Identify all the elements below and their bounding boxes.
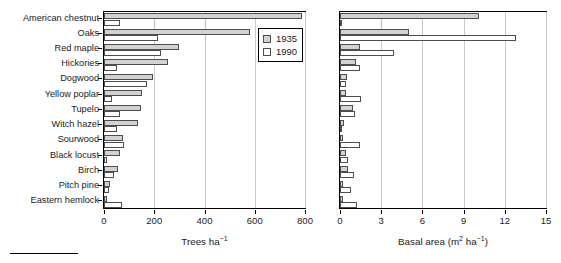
bar — [340, 105, 353, 111]
x-axis-title-exponent-ha: −1 — [477, 235, 485, 242]
legend-item-1990[interactable]: 1990 — [263, 45, 297, 58]
gridline — [305, 12, 306, 208]
bar — [340, 157, 348, 163]
bar — [104, 150, 120, 156]
category-label: Red maple — [55, 44, 99, 53]
category-label: Yellow poplar — [45, 90, 99, 99]
legend-swatch-1935-icon — [263, 35, 271, 43]
bar — [340, 135, 343, 141]
bar — [340, 35, 516, 41]
legend-item-1935[interactable]: 1935 — [263, 32, 297, 45]
x-tick — [340, 210, 341, 214]
bar — [104, 50, 161, 56]
category-label: Black locust — [50, 151, 99, 160]
bar — [104, 202, 122, 208]
gridline — [255, 12, 256, 208]
category-label: Pitch pine — [59, 181, 99, 190]
y-tick — [98, 109, 102, 110]
gridline — [381, 12, 382, 208]
y-tick — [98, 139, 102, 140]
bar — [340, 90, 346, 96]
x-tick-label: 3 — [361, 216, 401, 226]
x-tick — [154, 210, 155, 214]
y-tick — [98, 155, 102, 156]
bar — [104, 126, 117, 132]
legend-label-1990: 1990 — [276, 47, 297, 57]
x-tick-label: 12 — [485, 216, 525, 226]
y-tick — [98, 124, 102, 125]
bar — [340, 29, 409, 35]
bar — [340, 166, 348, 172]
bar — [340, 20, 342, 26]
x-axis-title-prefix: Basal area (m — [398, 236, 459, 247]
y-tick — [98, 33, 102, 34]
bar — [340, 150, 346, 156]
bar — [104, 59, 168, 65]
gridline — [505, 12, 506, 208]
category-label: American chestnut — [23, 14, 99, 23]
bar — [104, 74, 153, 80]
x-tick — [422, 210, 423, 214]
category-label: Hickories — [61, 59, 99, 68]
bar — [340, 111, 355, 117]
bar — [104, 65, 117, 71]
x-axis-title-basal-area: Basal area (m2 ha−1) — [339, 236, 547, 247]
legend-swatch-1990-icon — [263, 48, 271, 56]
chart-panel-trees: American chestnutOaksRed mapleHickoriesD… — [0, 0, 320, 263]
gridline — [422, 12, 423, 208]
x-tick — [464, 210, 465, 214]
bar — [104, 20, 120, 26]
x-tick-label: 600 — [235, 216, 275, 226]
category-label: Oaks — [78, 29, 99, 38]
y-tick — [98, 18, 102, 19]
y-tick — [98, 94, 102, 95]
bar — [104, 157, 107, 163]
x-tick-label: 0 — [320, 216, 360, 226]
bar — [340, 96, 361, 102]
x-tick — [305, 210, 306, 214]
x-tick-label: 0 — [84, 216, 124, 226]
x-tick-label: 200 — [134, 216, 174, 226]
bar — [340, 202, 357, 208]
x-tick — [381, 210, 382, 214]
bar — [104, 35, 158, 41]
gridline — [205, 12, 206, 208]
y-tick — [98, 48, 102, 49]
x-tick-label: 9 — [444, 216, 484, 226]
bar — [340, 187, 351, 193]
footer-rule — [10, 253, 78, 254]
x-axis-title-exponent: −1 — [220, 235, 228, 242]
chart-panel-basal-area: 03691215 Basal area (m2 ha−1) — [320, 0, 561, 263]
x-axis-title-text: Trees ha — [181, 236, 219, 247]
category-label: Dogwood — [60, 74, 99, 83]
bar — [104, 120, 138, 126]
bar — [340, 44, 360, 50]
bar — [104, 172, 114, 178]
bar — [340, 13, 479, 19]
bar — [104, 13, 302, 19]
x-axis-title-mid: ha — [463, 236, 477, 247]
bar — [104, 29, 250, 35]
gridline — [464, 12, 465, 208]
figure: American chestnutOaksRed mapleHickoriesD… — [0, 0, 561, 263]
x-tick — [255, 210, 256, 214]
y-tick — [98, 200, 102, 201]
x-axis-title-trees: Trees ha−1 — [103, 236, 306, 247]
x-tick — [104, 210, 105, 214]
bar — [340, 172, 354, 178]
bar — [104, 187, 109, 193]
bar — [340, 59, 356, 65]
bar — [340, 50, 394, 56]
category-label: Tupelo — [71, 105, 99, 114]
plot-area-basal-area — [339, 11, 547, 209]
bar — [340, 65, 360, 71]
bar — [104, 181, 110, 187]
bar — [104, 96, 112, 102]
bar — [104, 111, 120, 117]
bar — [104, 90, 142, 96]
x-tick-label: 400 — [185, 216, 225, 226]
y-tick — [98, 185, 102, 186]
x-tick-label: 800 — [285, 216, 325, 226]
bar — [340, 120, 344, 126]
category-label: Birch — [78, 166, 99, 175]
